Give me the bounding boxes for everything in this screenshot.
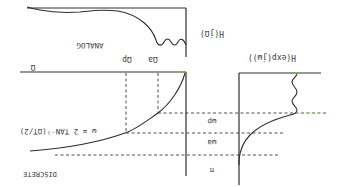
omega-a-label: Ωa: [148, 55, 158, 64]
discrete-label: DISCRETE: [23, 170, 57, 178]
omega-p-label: Ωp: [122, 55, 132, 64]
discrete-response-plot: [239, 73, 321, 185]
discrete-response-label: H(exp(jω)): [248, 53, 296, 62]
mapping-formula: ω = 2 TAN⁻¹(ΩT/2): [20, 127, 97, 136]
bilinear-warping-diagram: ANALOG H(jΩ) H(exp(jω)) Ω Ωp Ωa ωp ωa π …: [0, 0, 347, 187]
omega-axis-label: Ω: [30, 63, 35, 72]
pi-label: π: [209, 166, 214, 175]
warping-curve: [30, 73, 185, 151]
analog-label: ANALOG: [76, 41, 104, 50]
analog-response-label: H(jΩ): [200, 29, 224, 38]
mapping-plot: [20, 72, 326, 176]
analog-response-plot: [27, 7, 186, 57]
w-p-label: ωp: [207, 117, 217, 126]
discrete-response-curve: [239, 74, 297, 165]
analog-response-curve: [27, 7, 186, 45]
w-a-label: ωa: [207, 138, 216, 147]
